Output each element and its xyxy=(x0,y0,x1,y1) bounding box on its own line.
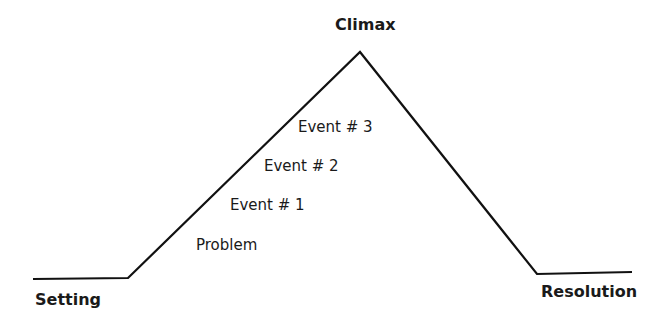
setting-label: Setting xyxy=(35,290,101,309)
event-2-label: Event # 2 xyxy=(264,157,339,175)
event-1-label: Event # 1 xyxy=(230,196,305,214)
problem-label: Problem xyxy=(196,236,257,254)
event-3-label: Event # 3 xyxy=(298,118,373,136)
climax-label: Climax xyxy=(335,15,396,34)
resolution-label: Resolution xyxy=(541,282,637,301)
